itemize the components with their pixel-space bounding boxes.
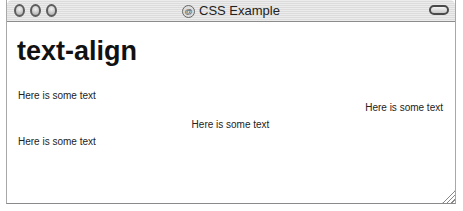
paragraph-left: Here is some text (18, 90, 443, 101)
title-bar[interactable]: @CSS Example (7, 0, 455, 22)
window-title-text: CSS Example (199, 3, 280, 18)
toolbar-toggle-button[interactable] (429, 5, 449, 15)
proxy-icon[interactable]: @ (182, 5, 195, 18)
paragraph-left-2: Here is some text (18, 136, 443, 147)
page-heading: text-align (17, 36, 137, 67)
resize-grip-icon[interactable] (442, 190, 455, 203)
window-title: @CSS Example (7, 3, 455, 18)
page-content: text-align Here is some text Here is som… (7, 22, 455, 203)
paragraph-right: Here is some text (18, 102, 443, 113)
paragraph-center: Here is some text (18, 119, 443, 130)
browser-window: @CSS Example text-align Here is some tex… (6, 0, 456, 204)
